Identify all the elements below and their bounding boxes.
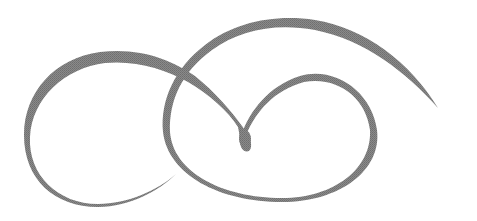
teardrop xyxy=(239,130,251,148)
left-loop-stroke xyxy=(24,51,251,207)
right-loop-stroke xyxy=(163,18,438,202)
swirl-icon xyxy=(0,0,477,221)
flourish-ornament: Calligraphic swash flourish xyxy=(0,0,477,221)
